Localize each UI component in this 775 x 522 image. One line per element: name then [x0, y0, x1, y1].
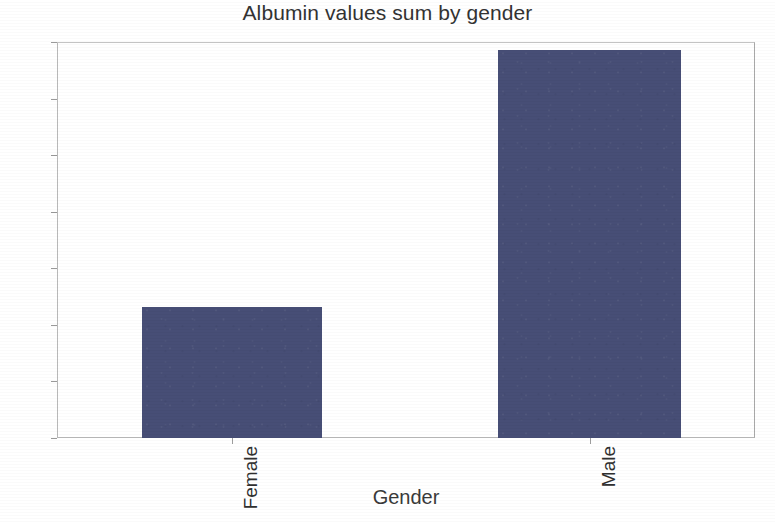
x-axis-tick-mark: [232, 438, 233, 444]
bar-female: [142, 307, 322, 438]
bar-texture: [142, 307, 322, 438]
x-axis-tick-mark: [590, 438, 591, 444]
chart-title: Albumin values sum by gender: [0, 1, 775, 25]
bar-male: [498, 50, 681, 438]
bar-chart: Albumin values sum by gender 14001200100…: [0, 0, 775, 522]
y-axis-tick-mark: [51, 438, 57, 439]
x-axis-category-label: Male: [599, 446, 618, 487]
bar-texture: [498, 50, 681, 438]
y-axis: 1400120010008006004002000: [0, 0, 57, 522]
x-axis-title: Gender: [57, 486, 755, 509]
bars-layer: [57, 42, 755, 438]
